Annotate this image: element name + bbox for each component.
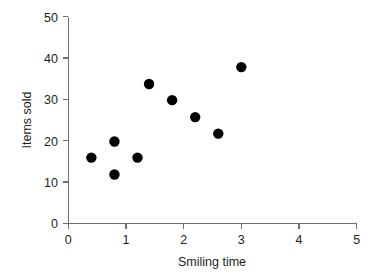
data-point — [132, 152, 142, 162]
x-tick-label-4: 4 — [296, 233, 303, 247]
data-points-group — [86, 62, 246, 180]
y-tick-label-10: 10 — [44, 176, 58, 190]
data-point — [213, 128, 223, 138]
axis-lines — [68, 17, 356, 224]
x-axis-tick-labels: 0 1 2 3 4 5 — [65, 233, 360, 247]
x-axis-ticks — [68, 223, 356, 229]
x-tick-label-2: 2 — [180, 233, 187, 247]
y-tick-label-0: 0 — [51, 217, 58, 231]
x-tick-label-1: 1 — [123, 233, 130, 247]
y-axis-ticks — [63, 17, 69, 224]
data-point — [236, 62, 246, 72]
x-tick-label-3: 3 — [238, 233, 245, 247]
y-tick-label-20: 20 — [44, 135, 58, 149]
plot-canvas: 50 40 30 20 10 0 0 1 2 3 4 5 Smiling tim… — [0, 0, 376, 278]
scatter-plot-figure: 50 40 30 20 10 0 0 1 2 3 4 5 Smiling tim… — [0, 0, 376, 278]
data-point — [86, 152, 96, 162]
data-point — [167, 95, 177, 105]
y-tick-label-30: 30 — [44, 93, 58, 107]
x-tick-label-5: 5 — [353, 233, 360, 247]
y-tick-label-40: 40 — [44, 52, 58, 66]
y-axis-title: Items sold — [20, 91, 34, 148]
y-axis-tick-labels: 50 40 30 20 10 0 — [44, 11, 58, 232]
y-tick-label-50: 50 — [44, 11, 58, 25]
data-point — [109, 136, 119, 146]
x-tick-label-0: 0 — [65, 233, 72, 247]
data-point — [144, 79, 154, 89]
data-point — [190, 112, 200, 122]
x-axis-title: Smiling time — [178, 255, 246, 269]
data-point — [109, 169, 119, 179]
